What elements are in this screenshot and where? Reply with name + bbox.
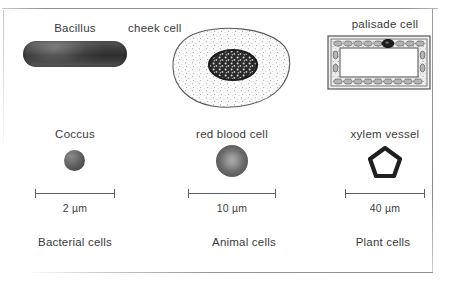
red-blood-cell-drawing (216, 145, 248, 177)
scale-bar-bacterial (35, 189, 115, 198)
scale-label-bacterial: 2 µm (63, 202, 87, 214)
coccus-drawing (64, 150, 85, 171)
scale-bar-rule (188, 193, 276, 194)
cell-label-xylem-vessel: xylem vessel (351, 128, 420, 141)
palisade-cell-drawing (327, 35, 431, 90)
frame-border-top (2, 8, 438, 9)
scale-bar-animal (188, 189, 276, 198)
cell-label-red-blood-cell: red blood cell (196, 128, 268, 141)
cell-types-figure: Bacillus Coccus 2 µm Bacterial cells che… (0, 0, 450, 281)
scale-bar-rule (345, 193, 425, 194)
frame-border-left (3, 10, 4, 160)
cell-label-bacillus: Bacillus (54, 22, 96, 35)
xylem-vessel-drawing (368, 146, 402, 178)
scale-bar-cap-right (424, 189, 425, 198)
frame-border-right (432, 9, 433, 273)
category-label-plant: Plant cells (356, 236, 411, 249)
scale-label-plant: 40 µm (370, 202, 400, 214)
category-label-animal: Animal cells (212, 236, 276, 249)
cell-label-palisade-cell: palisade cell (352, 18, 419, 31)
scale-bar-cap-right (275, 189, 276, 198)
frame-border-bottom (26, 272, 433, 273)
scale-bar-rule (35, 193, 115, 194)
scale-bar-plant (345, 189, 425, 198)
scale-bar-cap-right (114, 189, 115, 198)
category-label-bacterial: Bacterial cells (38, 236, 112, 249)
cell-label-coccus: Coccus (55, 128, 95, 141)
bacillus-drawing (23, 41, 127, 67)
cheek-cell-drawing (170, 26, 294, 110)
scale-label-animal: 10 µm (217, 202, 247, 214)
